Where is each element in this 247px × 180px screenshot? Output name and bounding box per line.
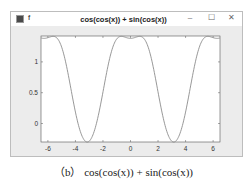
svg-text:0.5: 0.5 <box>29 89 38 96</box>
svg-text:4: 4 <box>184 145 188 152</box>
figure-caption: （b） cos(cos(x)) + sin(cos(x)) <box>0 163 247 179</box>
plot-axes: -6-4-2024600.51 <box>0 0 247 160</box>
svg-text:-2: -2 <box>100 145 106 152</box>
svg-text:6: 6 <box>211 145 215 152</box>
svg-text:0: 0 <box>129 145 133 152</box>
axes-box <box>41 36 220 142</box>
svg-text:-4: -4 <box>73 145 79 152</box>
svg-text:-6: -6 <box>45 145 51 152</box>
svg-text:2: 2 <box>156 145 160 152</box>
svg-text:0: 0 <box>34 120 38 127</box>
svg-text:1: 1 <box>34 58 38 65</box>
